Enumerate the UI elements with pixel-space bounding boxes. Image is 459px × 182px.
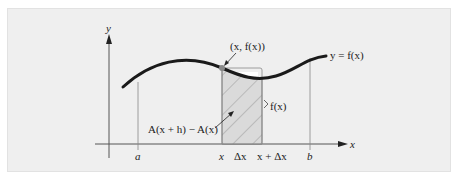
tick-dx: Δx — [234, 150, 247, 162]
tick-a: a — [135, 150, 141, 162]
tick-x-plus-dx: x + Δx — [257, 150, 287, 162]
x-axis-label: x — [349, 138, 355, 150]
brace-icon — [264, 100, 268, 108]
y-axis — [106, 34, 112, 158]
tick-b: b — [307, 150, 313, 162]
tick-x: x — [218, 150, 224, 162]
height-label: f(x) — [270, 100, 287, 113]
area-function-diagram: y x (x, f(x)) y = f(x) f(x) A(x + h) − A… — [0, 0, 459, 182]
y-axis-label: y — [105, 22, 111, 34]
point-label: (x, f(x)) — [230, 40, 265, 53]
area-label: A(x + h) − A(x) — [148, 123, 218, 136]
curve-label: y = f(x) — [330, 49, 364, 62]
